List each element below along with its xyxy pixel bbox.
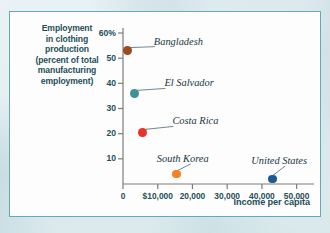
y-tick-label: 60% [82, 29, 116, 38]
data-point-united-states[interactable] [268, 175, 277, 184]
point-label-costa-rica: Costa Rica [172, 115, 218, 126]
y-tick-label: 50 [82, 54, 116, 63]
y-tick-label: 40 [82, 79, 116, 88]
y-tick-label: 30 [82, 104, 116, 113]
x-axis-title: Income per capita [160, 197, 310, 207]
point-label-united-states: United States [251, 155, 307, 166]
data-point-costa-rica[interactable] [138, 128, 147, 137]
point-label-south-korea: South Korea [157, 153, 209, 164]
point-label-bangladesh: Bangladesh [154, 36, 203, 47]
data-point-el-salvador[interactable] [130, 89, 139, 98]
y-tick-label: 10 [82, 154, 116, 163]
chart-figure: Employment in clothing production (perce… [0, 0, 330, 233]
point-label-el-salvador: El Salvador [164, 77, 213, 88]
chart-panel: Employment in clothing production (perce… [9, 11, 321, 217]
y-tick-label: 20 [82, 129, 116, 138]
